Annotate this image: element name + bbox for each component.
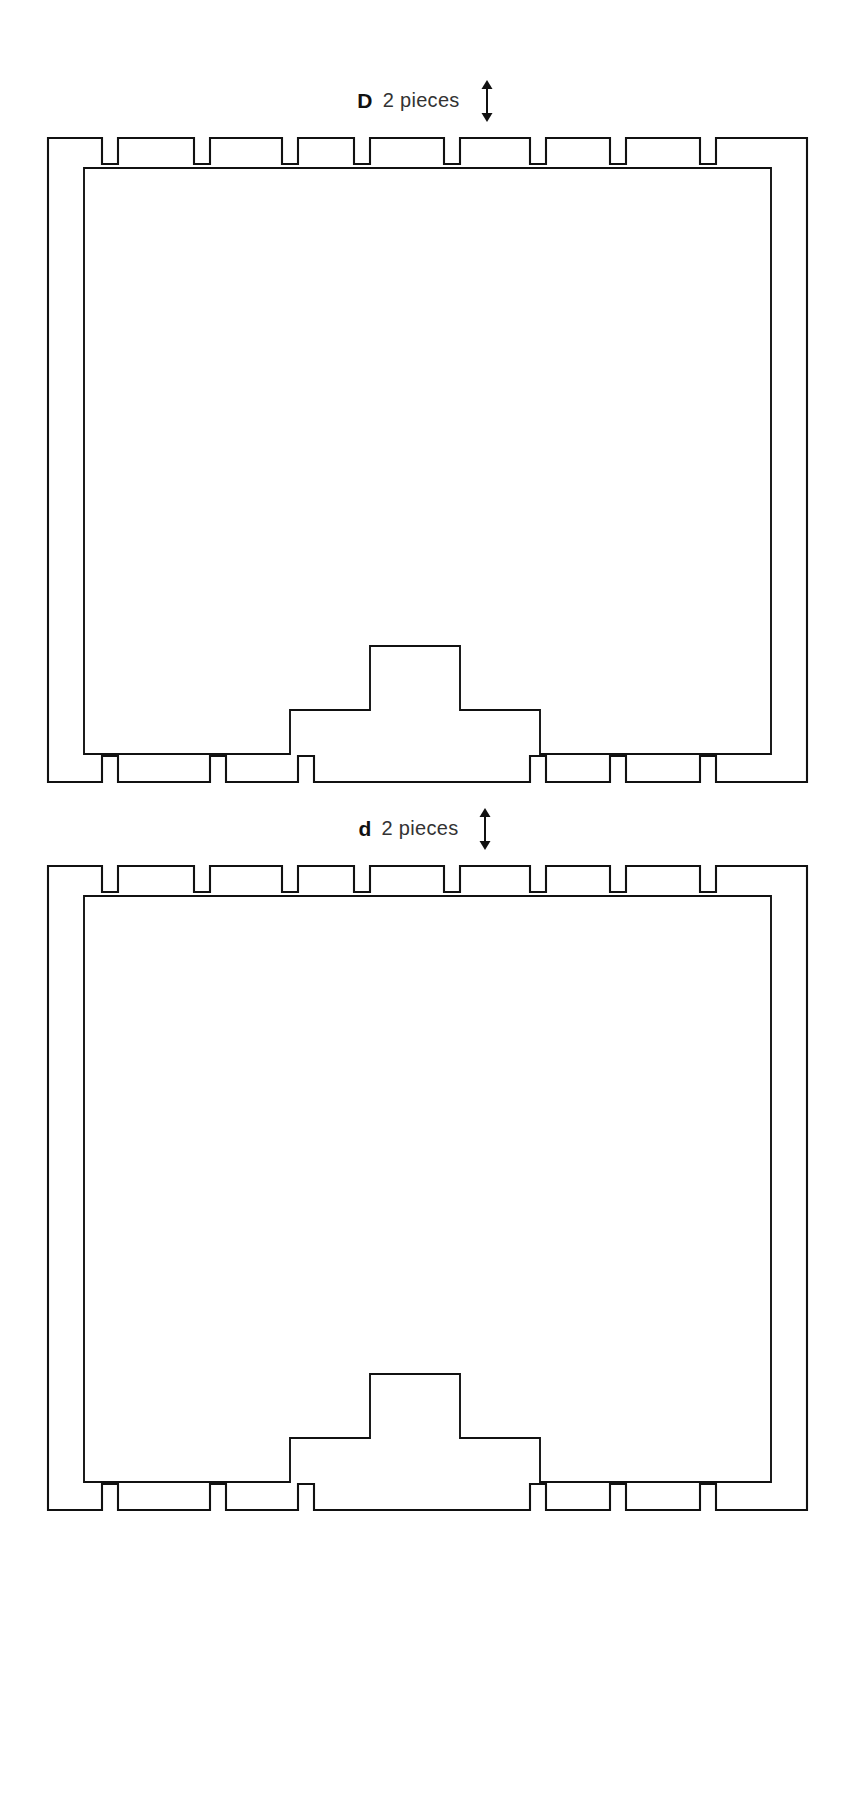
piece-code-label: D	[357, 90, 372, 111]
piece-code-label: d	[359, 818, 372, 839]
piece-drawing-d	[40, 852, 815, 1524]
piece-quantity-label: 2 pieces	[382, 818, 459, 838]
double-headed-vertical-arrow-icon	[474, 808, 496, 850]
piece-drawing-D	[40, 124, 815, 796]
piece-label-D: D 2 pieces	[0, 78, 855, 122]
drawing-sheet: D 2 pieces d 2 pieces	[0, 0, 855, 1813]
double-headed-vertical-arrow-icon	[476, 80, 498, 122]
piece-label-d: d 2 pieces	[0, 806, 855, 850]
piece-quantity-label: 2 pieces	[383, 90, 460, 110]
